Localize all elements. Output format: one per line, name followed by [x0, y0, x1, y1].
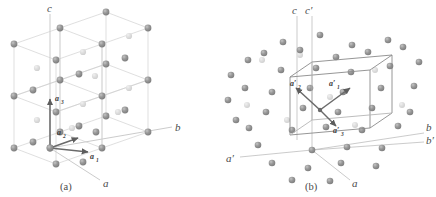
panel-a-caption: (a) — [60, 181, 72, 193]
panel-b-origin-point — [318, 108, 322, 112]
panel-a-origin-atom — [47, 145, 54, 152]
panel-b-label-a1-prime-base: a′ — [329, 79, 335, 88]
panel-b-caption: (b) — [305, 181, 318, 193]
panel-b-label-a3-prime-sub: 3 — [340, 131, 344, 137]
panel-a-axis-label-b: b — [175, 121, 181, 133]
panel-a-label-a1-base: a — [90, 152, 94, 161]
panel-a-label-a2-base: a — [57, 128, 61, 137]
panel-b-label-a1-prime-sub: 1 — [337, 84, 340, 90]
panel-a-axis-label-a: a — [103, 177, 109, 189]
crystal-lattice-diagram: a 3 a 2 a 1 c b a (a) — [0, 0, 436, 197]
panel-a-label-a3-base: a — [55, 94, 59, 103]
panel-b-label-a2-prime-sub: 2 — [297, 84, 301, 90]
panel-b-axis-label-c-prime: c′ — [305, 4, 313, 16]
panel-b-axis-label-a: a — [352, 177, 358, 189]
panel-b-label-a2-prime-base: a′ — [290, 79, 296, 88]
panel-a-label-a2-sub: 2 — [62, 133, 66, 139]
panel-b-axis-label-a-prime: a′ — [226, 152, 235, 164]
panel-b-label-a3-prime-base: a′ — [333, 126, 339, 135]
panel-a-label-a3-sub: 3 — [60, 99, 64, 105]
panel-a-label-a1-sub: 1 — [96, 157, 99, 163]
panel-b-axis-label-b-prime: b′ — [426, 134, 435, 146]
panel-b-axis-label-b: b — [426, 121, 432, 133]
figure-root: a 3 a 2 a 1 c b a (a) — [0, 0, 436, 197]
figure-background — [0, 0, 436, 197]
panel-b-axis-label-c: c — [292, 4, 297, 16]
panel-a-axis-label-c: c — [47, 2, 52, 14]
